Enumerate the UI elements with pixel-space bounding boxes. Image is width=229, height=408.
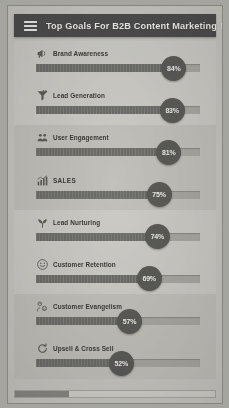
percent-badge: 57% <box>117 309 142 334</box>
megaphone-icon <box>36 47 49 60</box>
progress-track-wrap: 81% <box>36 148 200 156</box>
progress-track-wrap: 83% <box>36 106 200 114</box>
two-people-speech-icon <box>36 300 49 313</box>
goal-row-customer-evangelism[interactable]: Customer Evangelism 57% <box>14 294 216 336</box>
progress-track-wrap: 74% <box>36 233 200 241</box>
goal-row-customer-retention[interactable]: Customer Retention 69% <box>14 252 216 294</box>
goal-label-group: Brand Awareness <box>36 47 108 60</box>
progress-fill <box>36 106 172 114</box>
photo-frame: Top Goals For B2B Content Marketing ! Br… <box>0 0 229 408</box>
goal-name: User Engagement <box>53 134 109 141</box>
goals-list: Brand Awareness 84% Lead Generation <box>14 41 216 388</box>
goal-label-group: Customer Retention <box>36 258 116 271</box>
bar-chart-up-icon <box>36 174 49 187</box>
progress-fill <box>36 275 149 283</box>
progress-track-wrap: 84% <box>36 64 200 72</box>
goal-label-group: Lead Generation <box>36 89 105 102</box>
percent-badge: 69% <box>137 266 162 291</box>
goal-name: Brand Awareness <box>53 50 108 57</box>
people-icon <box>36 131 49 144</box>
goal-label-group: Upsell & Cross Sell <box>36 342 114 355</box>
goal-row-lead-nurturing[interactable]: Lead Nurturing 74% <box>14 210 216 252</box>
goal-label-group: SALES <box>36 174 76 187</box>
goal-name: Lead Nurturing <box>53 219 100 226</box>
goal-row-user-engagement[interactable]: User Engagement 81% <box>14 125 216 167</box>
goal-name: Upsell & Cross Sell <box>53 345 114 352</box>
app-screen: Top Goals For B2B Content Marketing ! Br… <box>7 5 223 404</box>
goal-name: Customer Evangelism <box>53 303 122 310</box>
funnel-icon <box>36 89 49 102</box>
progress-fill <box>36 64 174 72</box>
smiley-face-icon <box>36 258 49 271</box>
goal-name: SALES <box>53 177 76 184</box>
progress-track-wrap: 75% <box>36 191 200 199</box>
percent-badge: 52% <box>109 351 134 376</box>
percent-badge: 75% <box>147 182 172 207</box>
progress-fill <box>36 191 159 199</box>
goal-name: Lead Generation <box>53 92 105 99</box>
progress-fill <box>36 233 157 241</box>
page-title: Top Goals For B2B Content Marketing ! <box>46 21 223 31</box>
app-header: Top Goals For B2B Content Marketing ! <box>14 14 216 37</box>
goal-row-upsell-cross-sell[interactable]: Upsell & Cross Sell 52% <box>14 336 216 378</box>
percent-badge: 74% <box>145 224 170 249</box>
progress-track-wrap: 69% <box>36 275 200 283</box>
horizontal-scrollbar[interactable] <box>14 390 216 398</box>
goal-label-group: User Engagement <box>36 131 109 144</box>
goal-label-group: Customer Evangelism <box>36 300 122 313</box>
goal-name: Customer Retention <box>53 261 116 268</box>
goal-row-lead-generation[interactable]: Lead Generation 83% <box>14 83 216 125</box>
progress-track-wrap: 57% <box>36 317 200 325</box>
progress-track-wrap: 52% <box>36 359 200 367</box>
goal-label-group: Lead Nurturing <box>36 216 100 229</box>
hamburger-menu-icon[interactable] <box>24 21 37 31</box>
progress-fill <box>36 148 169 156</box>
percent-badge: 81% <box>156 140 181 165</box>
progress-fill <box>36 317 129 325</box>
refresh-cycle-icon <box>36 342 49 355</box>
goal-row-sales[interactable]: SALES 75% <box>14 168 216 210</box>
percent-badge: 84% <box>161 56 186 81</box>
sprout-icon <box>36 216 49 229</box>
scrollbar-thumb[interactable] <box>15 391 69 397</box>
goal-row-brand-awareness[interactable]: Brand Awareness 84% <box>14 41 216 83</box>
percent-badge: 83% <box>160 98 185 123</box>
